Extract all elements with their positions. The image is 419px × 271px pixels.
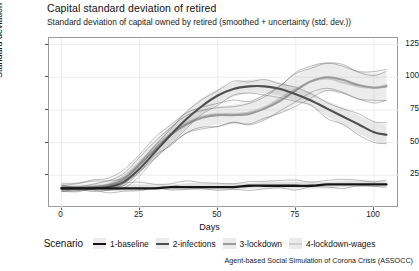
- legend-item-1-baseline[interactable]: 1-baseline: [93, 238, 149, 249]
- legend-item-4-lockdown-wages[interactable]: 4-lockdown-wages: [289, 238, 375, 249]
- page-title: Capital standard deviation of retired: [47, 2, 216, 14]
- legend: Scenario 1-baseline2-infections3-lockdow…: [0, 238, 419, 249]
- uncertainty-ribbon: [62, 80, 387, 191]
- x-axis-label: Days: [0, 222, 419, 232]
- legend-key-swatch: [93, 238, 106, 249]
- y-axis-label: Standard deviation: [0, 3, 4, 78]
- series-3-lockdown: [62, 63, 387, 192]
- legend-item-2-infections[interactable]: 2-infections: [156, 238, 216, 249]
- legend-item-3-lockdown[interactable]: 3-lockdown: [223, 238, 282, 249]
- legend-item-label: 1-baseline: [110, 239, 149, 249]
- chart-root: Capital standard deviation of retired St…: [0, 0, 419, 271]
- uncertainty-ribbon: [62, 63, 387, 191]
- plot-panel: [48, 37, 398, 207]
- legend-title: Scenario: [44, 238, 83, 249]
- x-tick-label: 50: [197, 210, 237, 219]
- plot-area: [49, 38, 399, 208]
- legend-key-swatch: [156, 238, 169, 249]
- chart-subtitle: Standard deviation of capital owned by r…: [47, 17, 351, 27]
- x-tick-label: 25: [119, 210, 159, 219]
- legend-key-swatch: [223, 238, 236, 249]
- legend-key-swatch: [289, 238, 302, 249]
- x-tick-label: 75: [275, 210, 315, 219]
- legend-item-label: 3-lockdown: [240, 239, 282, 249]
- legend-item-label: 4-lockdown-wages: [306, 239, 375, 249]
- legend-item-label: 2-infections: [173, 239, 216, 249]
- x-tick-label: 0: [41, 210, 81, 219]
- mean-line: [62, 86, 387, 188]
- chart-caption: Agent-based Social Simulation of Corona …: [224, 256, 413, 265]
- x-tick-label: 100: [353, 210, 393, 219]
